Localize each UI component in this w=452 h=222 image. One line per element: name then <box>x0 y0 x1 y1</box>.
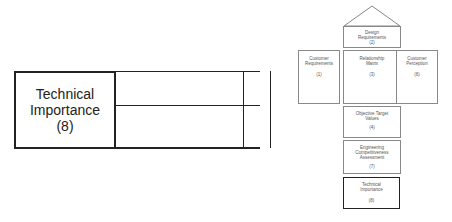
box-number: (2) <box>369 40 375 45</box>
technical-importance-label: Technical Importance (8) <box>14 71 116 149</box>
table-bottom-line <box>14 147 260 149</box>
box-number: (8) <box>369 198 375 203</box>
table-top-line <box>114 71 260 72</box>
label-line-1: Technical <box>36 86 94 102</box>
label-line-2: Importance <box>30 102 100 118</box>
box-number: (7) <box>369 164 375 169</box>
technical-importance-enlarged-table: Technical Importance (8) <box>14 71 260 149</box>
design-requirements-box: Design Requirements (2) <box>343 26 401 48</box>
box-label: Engineering Competitiveness Assessment <box>349 145 395 160</box>
table-column-divider <box>243 71 244 148</box>
box-number: (4) <box>369 125 375 130</box>
customer-requirements-box: Customer Requirements (1) <box>298 50 340 104</box>
roof-triangle-icon <box>343 5 401 27</box>
engineering-competitiveness-assessment-box: Engineering Competitiveness Assessment (… <box>343 140 401 174</box>
box-label: Technical Importance <box>354 182 390 192</box>
box-label: Design Requirements <box>357 30 387 40</box>
box-number: (3) <box>369 72 375 77</box>
box-label: Customer Perception <box>400 56 434 66</box>
box-number: (1) <box>316 72 322 77</box>
box-label: Objective Target Values <box>352 111 392 121</box>
box-number: (6) <box>414 72 420 77</box>
table-column-divider <box>270 71 271 148</box>
customer-perception-box: Customer Perception (6) <box>396 50 438 104</box>
table-middle-line <box>114 105 260 106</box>
box-label: Relationship Matrix <box>357 56 387 66</box>
relationship-matrix-box: Relationship Matrix (3) <box>343 50 401 104</box>
objective-target-values-box: Objective Target Values (4) <box>343 106 401 138</box>
label-line-3: (8) <box>56 118 73 134</box>
box-label: Customer Requirements <box>302 56 336 66</box>
technical-importance-box: Technical Importance (8) <box>343 177 400 209</box>
